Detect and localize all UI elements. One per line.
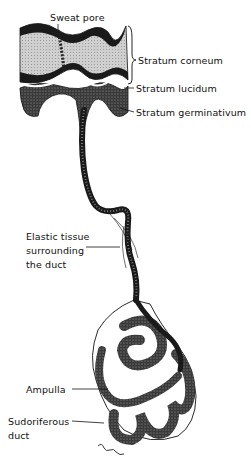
label-elastic-tissue-line2: surrounding	[26, 245, 84, 256]
gland-coil-2	[99, 350, 178, 403]
sweat-gland-diagram: Sweat pore Stratum corneum Stratum lucid…	[0, 0, 251, 469]
corneum-bracket	[128, 26, 136, 84]
label-elastic-tissue-line3: the duct	[26, 259, 66, 270]
sudoriferous-duct-upper	[82, 110, 137, 300]
label-stratum-lucidum: Stratum lucidum	[136, 83, 217, 94]
label-sudoriferous-line1: Sudoriferous	[8, 416, 69, 427]
label-sudoriferous-line2: duct	[8, 430, 29, 441]
artist-signature	[98, 444, 124, 454]
label-ampulla: Ampulla	[26, 384, 66, 395]
label-elastic-tissue-line1: Elastic tissue	[26, 231, 90, 242]
label-stratum-germinativum: Stratum germinativum	[136, 107, 246, 118]
leader-sudoriferous-duct	[72, 421, 104, 423]
label-stratum-corneum: Stratum corneum	[138, 55, 223, 66]
label-sweat-pore: Sweat pore	[50, 12, 105, 23]
stratum-germinativum-layer	[20, 83, 128, 150]
